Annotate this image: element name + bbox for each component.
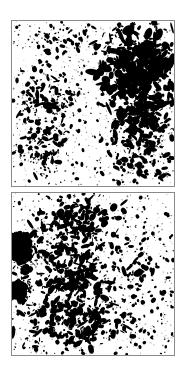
particle <box>25 66 26 67</box>
particle <box>12 318 14 321</box>
particle <box>165 330 166 331</box>
particle <box>126 166 127 167</box>
particle <box>53 26 55 30</box>
particle <box>92 146 93 147</box>
particle <box>29 46 31 48</box>
particle <box>158 23 160 25</box>
particle <box>107 278 108 280</box>
particle <box>68 137 69 138</box>
particle <box>33 302 37 306</box>
particle <box>164 337 165 338</box>
particle <box>26 219 34 230</box>
particle <box>130 194 132 196</box>
particle <box>54 160 62 165</box>
particle <box>13 41 15 43</box>
particle <box>131 170 133 172</box>
particle <box>33 108 34 110</box>
particle <box>60 181 62 183</box>
particle <box>114 228 115 229</box>
particle <box>34 114 36 116</box>
particle <box>41 54 42 55</box>
particle <box>127 285 134 289</box>
particle <box>40 256 43 259</box>
particle <box>131 153 132 154</box>
particle <box>127 147 130 149</box>
particle <box>139 177 140 178</box>
particle <box>148 198 150 200</box>
particle <box>160 250 161 251</box>
particle <box>12 265 16 270</box>
particle <box>46 223 51 225</box>
particle <box>106 199 107 200</box>
particle <box>149 342 150 343</box>
particle <box>169 134 174 142</box>
particle <box>124 242 130 246</box>
particle <box>59 219 61 223</box>
particle <box>170 241 171 242</box>
particle <box>29 153 34 159</box>
particle <box>95 119 99 123</box>
particle <box>164 314 166 315</box>
particle <box>22 110 24 112</box>
particle <box>30 99 31 100</box>
particle <box>15 126 16 127</box>
particle <box>31 213 35 217</box>
particle <box>46 244 49 246</box>
particle <box>12 42 14 44</box>
particle <box>135 236 136 238</box>
particle <box>62 71 67 76</box>
particle <box>78 243 80 245</box>
particle <box>150 155 154 158</box>
particle <box>40 290 46 294</box>
particle <box>96 160 98 162</box>
particle <box>75 83 79 87</box>
particle <box>126 319 129 321</box>
particle <box>113 298 114 299</box>
particle <box>75 69 77 71</box>
particle <box>131 206 133 208</box>
particle <box>101 208 102 210</box>
particle <box>80 347 82 349</box>
particle <box>86 260 89 263</box>
particle <box>42 232 44 235</box>
particle <box>83 125 84 126</box>
particle <box>98 303 101 307</box>
particle <box>33 97 35 100</box>
particle <box>126 250 128 252</box>
particle <box>169 30 171 32</box>
particle <box>35 55 37 57</box>
particle <box>68 87 70 89</box>
particle <box>32 151 33 152</box>
particle <box>26 174 27 175</box>
particle <box>69 60 71 62</box>
particle <box>120 272 121 273</box>
particle <box>49 242 52 245</box>
particle <box>53 130 56 132</box>
particle <box>169 107 172 110</box>
particle <box>118 43 122 47</box>
particle <box>130 181 132 183</box>
particle <box>73 91 75 93</box>
particle <box>31 41 33 43</box>
particle <box>129 240 131 242</box>
particle <box>145 259 147 262</box>
particle <box>114 213 115 214</box>
particle <box>107 135 108 136</box>
particle <box>92 135 94 137</box>
particle <box>160 226 161 227</box>
particle <box>37 161 39 163</box>
particle <box>134 239 135 240</box>
particle <box>88 137 89 138</box>
particle <box>135 214 141 220</box>
particle <box>54 353 55 354</box>
particle <box>24 168 25 169</box>
particle <box>13 206 15 208</box>
particle <box>14 77 15 78</box>
particle <box>164 318 165 319</box>
particle <box>78 119 82 123</box>
particle <box>85 26 87 28</box>
particle <box>19 134 20 135</box>
particle <box>105 126 107 128</box>
particle <box>25 185 26 186</box>
particle <box>139 153 142 156</box>
